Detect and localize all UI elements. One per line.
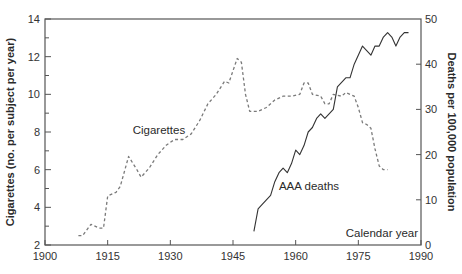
right-y-tick-label: 40 bbox=[425, 58, 437, 70]
right-y-tick-label: 50 bbox=[425, 13, 437, 25]
left-y-tick-label: 8 bbox=[34, 126, 40, 138]
cigarettes-line bbox=[78, 59, 387, 236]
right-y-tick-label: 30 bbox=[425, 103, 437, 115]
right-y-tick-label: 0 bbox=[425, 239, 431, 251]
x-tick-label: 1990 bbox=[409, 250, 433, 262]
left-y-tick-label: 2 bbox=[34, 239, 40, 251]
right-y-axis-title: Deaths per 100,000 population bbox=[446, 53, 458, 212]
left-y-tick-label: 14 bbox=[28, 13, 40, 25]
cigarettes-label: Cigarettes bbox=[133, 124, 186, 136]
x-tick-label: 1945 bbox=[221, 250, 245, 262]
annotations: CigarettesAAA deathsCalendar year bbox=[133, 124, 418, 240]
left-y-tick-label: 10 bbox=[28, 88, 40, 100]
x-tick-label: 1930 bbox=[158, 250, 182, 262]
right-y-tick-label: 20 bbox=[425, 149, 437, 161]
right-y-tick-label: 10 bbox=[425, 194, 437, 206]
x-tick-label: 1960 bbox=[283, 250, 307, 262]
x-axis-ticks: 1900191519301945196019751990 bbox=[33, 240, 433, 262]
left-y-axis-ticks: 2468101214 bbox=[28, 13, 51, 251]
series-lines bbox=[78, 33, 408, 236]
x-tick-label: 1915 bbox=[95, 250, 119, 262]
calendar-year-label: Calendar year bbox=[346, 227, 418, 239]
left-y-axis-title: Cigarettes (no. per subject per year) bbox=[4, 38, 16, 227]
aaa-deaths-line bbox=[254, 33, 409, 232]
dual-axis-line-chart: 1900191519301945196019751990 2468101214 … bbox=[0, 0, 462, 274]
left-y-tick-label: 12 bbox=[28, 51, 40, 63]
right-y-axis-ticks: 01020304050 bbox=[416, 13, 437, 251]
left-y-tick-label: 6 bbox=[34, 164, 40, 176]
aaa-deaths-label: AAA deaths bbox=[279, 180, 339, 192]
left-y-tick-label: 4 bbox=[34, 201, 40, 213]
x-tick-label: 1900 bbox=[33, 250, 57, 262]
plot-frame bbox=[45, 19, 421, 245]
plot-border bbox=[45, 19, 421, 245]
x-tick-label: 1975 bbox=[346, 250, 370, 262]
